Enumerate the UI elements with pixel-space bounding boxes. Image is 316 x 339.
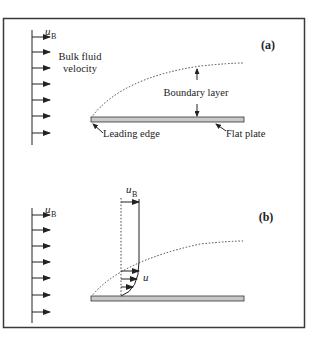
leading-edge-pointer: [93, 124, 103, 133]
figure-frame: [4, 19, 305, 328]
panel-tag-b: (b): [259, 210, 274, 224]
panel-tag-a: (a): [261, 38, 275, 52]
bulk-fluid-label-line1: Bulk fluid: [59, 51, 103, 62]
flat-plate-a: [91, 117, 244, 122]
velocity-subscript-b: B: [51, 210, 56, 219]
velocity-profile-curve: [121, 199, 139, 296]
local-velocity-label: u: [143, 271, 149, 283]
boundary-layer-curve-b: [91, 241, 244, 297]
bulk-velocity-arrows-b: [32, 215, 50, 312]
boundary-layer-diagram: u B Bulk fluid velocity (a) Boundary lay…: [0, 0, 316, 339]
panel-b: u B (b) u B u: [32, 183, 273, 323]
bulk-velocity-arrows-a: [32, 37, 50, 133]
boundary-layer-label: Boundary layer: [163, 87, 229, 98]
flat-plate-label: Flat plate: [226, 128, 266, 139]
profile-arrows: [121, 271, 139, 287]
flat-plate-b: [91, 296, 244, 301]
flat-plate-pointer: [216, 124, 226, 131]
velocity-subscript-a: B: [51, 32, 56, 41]
bulk-fluid-label-line2: velocity: [63, 63, 98, 74]
leading-edge-label: Leading edge: [103, 128, 160, 139]
profile-top-subscript: B: [132, 190, 137, 199]
panel-a: u B Bulk fluid velocity (a) Boundary lay…: [32, 25, 275, 145]
